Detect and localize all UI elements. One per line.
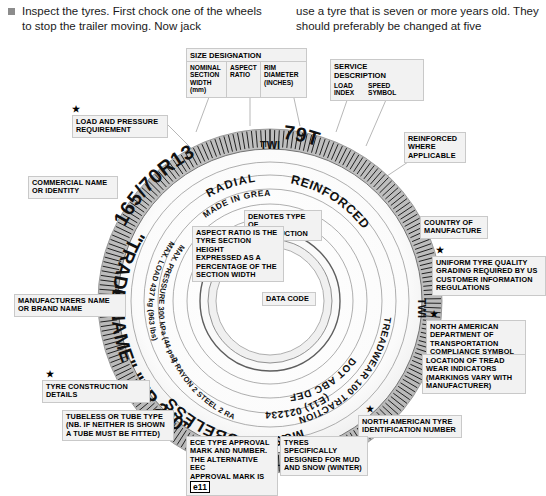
twi-marker-right: TWI bbox=[416, 298, 428, 318]
callout-manufacturers-name: MANUFACTURERS NAME OR BRAND NAME bbox=[14, 294, 126, 317]
tyre-markings-diagram: 165/70R13 79T RADIAL REINFORCED MADE IN … bbox=[0, 46, 546, 493]
asterisk-uniform-grading: ★ bbox=[436, 246, 444, 255]
asterisk-dot-symbol: ★ bbox=[430, 310, 438, 319]
handbook-body-copy: Inspect the tyres. First chock one of th… bbox=[0, 0, 546, 46]
service-col-load-index: LOAD INDEX bbox=[331, 81, 365, 100]
callout-data-code: DATA CODE bbox=[262, 292, 316, 306]
callout-tubeless-tube: TUBELESS OR TUBE TYPE (NB. IF NEITHER IS… bbox=[62, 410, 174, 441]
service-description-title: SERVICE DESCRIPTION bbox=[331, 60, 423, 81]
twi-marker-top: TWI bbox=[260, 139, 280, 151]
asterisk-load-pressure: ★ bbox=[72, 105, 80, 114]
marking-service: 79T bbox=[282, 121, 323, 150]
size-designation-title: SIZE DESIGNATION bbox=[187, 49, 306, 62]
size-col-nominal-width: NOMINAL SECTION WIDTH (mm) bbox=[187, 62, 227, 97]
callout-tread-wear-indicators: LOCATION OF TREAD WEAR INDICATORS (MARKI… bbox=[422, 354, 526, 394]
size-designation-table: SIZE DESIGNATION NOMINAL SECTION WIDTH (… bbox=[186, 48, 307, 98]
callout-tyre-construction: TYRE CONSTRUCTION DETAILS bbox=[42, 380, 150, 403]
size-col-aspect-ratio: ASPECT RATIO bbox=[227, 62, 261, 97]
callout-aspect-ratio: ASPECT RATIO IS THE TYRE SECTION HEIGHT … bbox=[192, 226, 284, 282]
callout-na-tyre-id: NORTH AMERICAN TYRE IDENTIFICATION NUMBE… bbox=[358, 415, 462, 438]
callout-ece-approval-text: ECE TYPE APPROVAL MARK AND NUMBER. THE A… bbox=[190, 438, 270, 481]
ece-approval-mark-box: e11 bbox=[190, 481, 210, 493]
service-description-table: SERVICE DESCRIPTION LOAD INDEX SPEED SYM… bbox=[330, 59, 424, 101]
callout-load-pressure: LOAD AND PRESSURE REQUIREMENT bbox=[72, 115, 168, 138]
asterisk-tyre-construction: ★ bbox=[46, 370, 54, 379]
callout-ece-approval: ECE TYPE APPROVAL MARK AND NUMBER. THE A… bbox=[186, 436, 278, 496]
callout-commercial-name: COMMERCIAL NAME OR IDENTITY bbox=[28, 176, 118, 199]
body-paragraph-right: use a tyre that is seven or more years o… bbox=[296, 4, 546, 34]
callout-reinforced: REINFORCED WHERE APPLICABLE bbox=[404, 132, 466, 163]
asterisk-na-tyre-id: ★ bbox=[366, 405, 374, 414]
size-col-rim-diameter: RIM DIAMETER (INCHES) bbox=[261, 62, 306, 97]
callout-uniform-grading: UNIFORM TYRE QUALITY GRADING REQUIRED BY… bbox=[432, 256, 546, 296]
marking-size: 165/70R13 bbox=[109, 140, 198, 229]
callout-mud-snow: TYRES SPECIFICALLY DESIGNED FOR MUD AND … bbox=[280, 436, 368, 476]
bullet-marker-icon bbox=[8, 8, 15, 15]
callout-country-manufacture: COUNTRY OF MANUFACTURE bbox=[420, 216, 488, 239]
body-paragraph-left: Inspect the tyres. First chock one of th… bbox=[22, 4, 272, 34]
service-col-speed-symbol: SPEED SYMBOL bbox=[365, 81, 421, 100]
